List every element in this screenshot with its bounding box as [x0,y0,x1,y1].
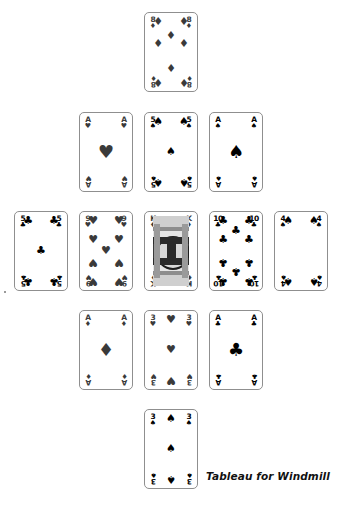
playing-card-left-inner[interactable]: 9♥9♥9♥9♥♥♥♥♥♥♥♥♥♥ [79,211,133,291]
card-pip-hearts: ♥ [113,215,125,227]
card-pip-spades: ♠ [165,146,177,158]
card-pip-hearts: ♥ [87,256,99,268]
card-pip-hearts: ♥ [165,314,177,326]
card-pip-spades: ♠ [282,215,294,227]
card-pip-clubs: ♣ [243,256,255,268]
playing-card-lower-center[interactable]: 3♥3♥3♥3♥♥♥♥ [144,310,198,390]
card-pip-spades: ♠ [308,275,320,287]
playing-card-right-outer[interactable]: 4♠4♠4♠4♠♠♠♠♠ [274,211,328,291]
playing-card-bottom-arm[interactable]: 3♠3♠3♠3♠♠♠♠ [144,409,198,489]
card-pip-clubs: ♣ [217,256,229,268]
card-pip-spades: ♠ [308,215,320,227]
figure-caption: Tableau for Windmill [206,470,330,482]
card-pip-diamonds: ♦ [152,76,164,88]
card-pip-clubs: ♣ [243,215,255,227]
card-pip-diamonds: ♦ [96,340,116,360]
card-pip-clubs: ♣ [243,275,255,287]
playing-card-right-inner[interactable]: 10♣10♣10♣10♣♣♣♣♣♣♣♣♣♣♣ [209,211,263,291]
card-pip-diamonds: ♦ [165,61,177,73]
playing-card-upper-right[interactable]: A♠A♠A♠A♠♠ [209,112,263,192]
card-pip-clubs: ♣ [48,215,60,227]
card-pip-spades: ♠ [152,116,164,128]
card-pip-clubs: ♣ [217,215,229,227]
card-pip-hearts: ♥ [113,234,125,246]
card-pip-spades: ♠ [165,473,177,485]
card-pip-diamonds: ♦ [178,38,190,50]
card-pip-diamonds: ♦ [178,16,190,28]
card-pip-diamonds: ♦ [152,38,164,50]
card-pip-clubs: ♣ [217,234,229,246]
card-pip-field: ♥♥♥ [156,316,186,384]
card-pip-diamonds: ♦ [152,16,164,28]
card-pip-field: ♥♥♥♥♥♥♥♥♥ [91,217,121,285]
card-pip-field: ♣ [221,316,251,384]
card-pip-field: ♥ [91,118,121,186]
card-pip-spades: ♠ [152,176,164,188]
card-pip-clubs: ♣ [230,225,242,237]
card-pip-clubs: ♣ [22,215,34,227]
card-pip-field: ♠♠♠♠ [286,217,316,285]
card-pip-clubs: ♣ [217,275,229,287]
playing-card-center[interactable]: K♦K♦K♦K♦ [144,211,198,291]
card-pip-spades: ♠ [178,116,190,128]
card-pip-clubs: ♣ [22,275,34,287]
windmill-tableau: 8♦8♦8♦8♦♦♦♦♦♦♦♦♦A♥A♥A♥A♥♥5♠5♠5♠5♠♠♠♠♠♠A♠… [0,0,342,505]
card-pip-field: ♣♣♣♣♣ [26,217,56,285]
card-pip-field: ♠ [221,118,251,186]
playing-card-left-outer[interactable]: 5♣5♣5♣5♣♣♣♣♣♣ [14,211,68,291]
playing-card-lower-right[interactable]: A♣A♣A♣A♣♣ [209,310,263,390]
playing-card-upper-center[interactable]: 5♠5♠5♠5♠♠♠♠♠♠ [144,112,198,192]
playing-card-lower-left[interactable]: A♦A♦A♦A♦♦ [79,310,133,390]
card-pip-clubs: ♣ [35,245,47,257]
card-pip-field: ♦ [91,316,121,384]
card-pip-hearts: ♥ [113,275,125,287]
card-pip-field: ♦♦♦♦♦♦♦♦ [156,18,186,86]
card-pip-hearts: ♥ [165,344,177,356]
court-figure-king [153,216,189,286]
card-pip-clubs: ♣ [226,340,246,360]
playing-card-upper-left[interactable]: A♥A♥A♥A♥♥ [79,112,133,192]
card-pip-clubs: ♣ [243,234,255,246]
card-pip-diamonds: ♦ [178,76,190,88]
card-pip-hearts: ♥ [165,374,177,386]
card-pip-hearts: ♥ [96,142,116,162]
card-pip-hearts: ♥ [87,234,99,246]
card-pip-clubs: ♣ [230,265,242,277]
card-pip-field: ♠♠♠ [156,415,186,483]
card-pip-spades: ♠ [226,142,246,162]
card-pip-spades: ♠ [178,176,190,188]
card-pip-hearts: ♥ [113,256,125,268]
card-pip-hearts: ♥ [100,245,112,257]
court-side-panel [154,224,160,277]
card-pip-spades: ♠ [165,443,177,455]
court-side-panel [182,224,188,277]
card-pip-field: ♣♣♣♣♣♣♣♣♣♣ [221,217,251,285]
card-pip-hearts: ♥ [87,275,99,287]
card-pip-hearts: ♥ [87,215,99,227]
page-speck [4,291,6,293]
playing-card-top-arm[interactable]: 8♦8♦8♦8♦♦♦♦♦♦♦♦♦ [144,12,198,92]
card-pip-spades: ♠ [282,275,294,287]
card-pip-field: ♠♠♠♠♠ [156,118,186,186]
card-pip-spades: ♠ [165,413,177,425]
card-pip-diamonds: ♦ [165,30,177,42]
card-pip-clubs: ♣ [48,275,60,287]
